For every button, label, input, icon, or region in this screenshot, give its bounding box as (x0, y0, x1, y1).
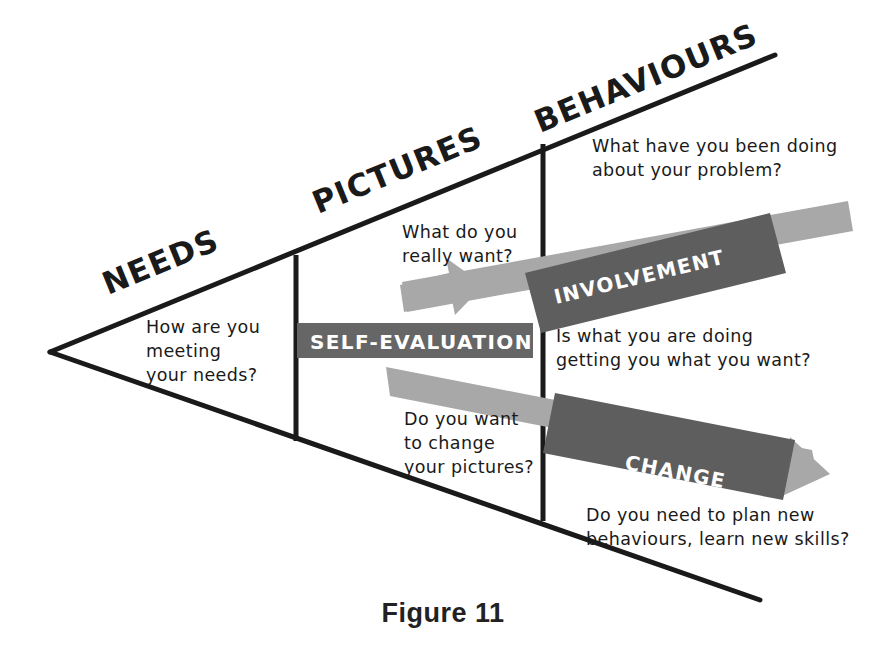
question-pictures-lower-line-2: to change (404, 433, 495, 453)
question-behaviours-lower: Do you need to plan new behaviours, lear… (586, 505, 850, 549)
diagram-svg: INVOLVEMENT SELF-EVALUATION CHANGE NEEDS… (0, 0, 885, 660)
figure-canvas: INVOLVEMENT SELF-EVALUATION CHANGE NEEDS… (0, 0, 885, 660)
change-label-plate (543, 393, 795, 500)
question-pictures-upper-line-1: What do you (402, 222, 517, 242)
question-behaviours-upper-line-1: What have you been doing (592, 136, 838, 156)
question-behaviours-lower-line-2: behaviours, learn new skills? (586, 529, 850, 549)
question-pictures-upper-line-2: really want? (402, 246, 513, 266)
question-needs-line-2: meeting (146, 341, 221, 361)
question-behaviours-upper-line-2: about your problem? (592, 160, 782, 180)
question-pictures-upper: What do you really want? (402, 222, 517, 266)
involvement-arrow: INVOLVEMENT (400, 201, 853, 333)
figure-caption: Figure 11 (381, 598, 504, 628)
question-needs-line-1: How are you (146, 317, 260, 337)
question-pictures-lower-line-1: Do you want (404, 409, 519, 429)
category-label-pictures: PICTURES (307, 119, 487, 221)
question-behaviours-lower-line-1: Do you need to plan new (586, 505, 815, 525)
question-pictures-lower-line-3: your pictures? (404, 457, 534, 477)
question-needs-line-3: your needs? (146, 365, 257, 385)
self-evaluation-label: SELF-EVALUATION (310, 330, 533, 354)
question-behaviours-middle-line-1: Is what you are doing (556, 326, 753, 346)
question-behaviours-middle-line-2: getting you what you want? (556, 350, 811, 370)
question-needs: How are you meeting your needs? (146, 317, 260, 385)
category-label-behaviours: BEHAVIOURS (529, 16, 763, 140)
self-evaluation-box: SELF-EVALUATION (297, 323, 533, 358)
question-behaviours-middle: Is what you are doing getting you what y… (556, 326, 811, 370)
question-behaviours-upper: What have you been doing about your prob… (592, 136, 838, 180)
question-pictures-lower: Do you want to change your pictures? (404, 409, 534, 477)
